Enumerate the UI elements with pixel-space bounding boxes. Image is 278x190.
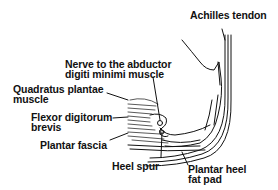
- fat-pad-shape: [160, 125, 210, 143]
- label-nerve-line2: digiti minimi muscle: [65, 69, 164, 79]
- heel-anatomy-diagram: Achilles tendon Nerve to the abductor di…: [0, 0, 278, 190]
- label-heel-spur: Heel spur: [112, 161, 159, 171]
- leader-lines: [107, 29, 225, 165]
- label-achilles-tendon: Achilles tendon: [190, 10, 267, 20]
- label-flexor-line2: brevis: [31, 122, 61, 132]
- label-quadratus-line2: muscle: [13, 94, 49, 104]
- label-fat-pad-line2: fat pad: [188, 174, 222, 184]
- calcaneus-shape: [165, 40, 222, 147]
- label-plantar-fascia: Plantar fascia: [40, 140, 107, 150]
